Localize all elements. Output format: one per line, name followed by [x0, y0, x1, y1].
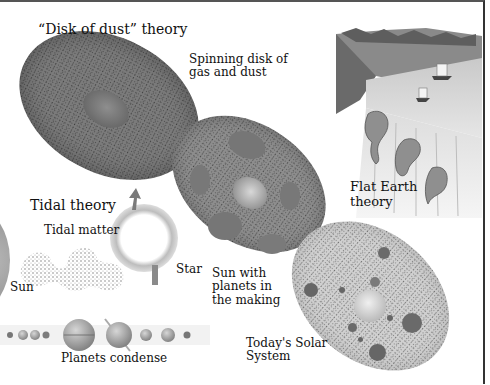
planet [304, 283, 318, 297]
arrow-tail [152, 265, 158, 285]
planet-row [0, 315, 210, 355]
flat-earth-line1: Flat Earth [350, 180, 417, 195]
spinning-disk-line2: gas and dust [189, 66, 288, 79]
disk-of-dust-theory-label: “Disk of dust” theory [38, 22, 187, 38]
sun-label: Sun [10, 281, 34, 294]
protoplanet-blob [208, 212, 242, 240]
solar-system-sun [354, 290, 386, 322]
arrow-up-icon [128, 188, 142, 210]
star-ring [110, 204, 178, 272]
sun-with-planets-line3: the making [212, 294, 281, 307]
protoplanet-blob [258, 234, 286, 254]
todays-solar-line2: System [246, 350, 327, 363]
spinning-disk-label: Spinning disk of gas and dust [189, 53, 288, 80]
spinning-disk-line1: Spinning disk of [189, 53, 288, 66]
sun-with-planets-label: Sun with planets in the making [212, 267, 281, 307]
sun-with-planets-line2: planets in [212, 280, 281, 293]
planet [348, 323, 357, 332]
planet [402, 313, 422, 333]
todays-solar-line1: Today's Solar [246, 337, 327, 350]
planet [378, 247, 390, 259]
planet [358, 337, 363, 342]
protoplanet-blob [190, 165, 210, 195]
planets-condense-label: Planets condense [61, 352, 167, 365]
sun-with-planets-line1: Sun with [212, 267, 281, 280]
flat-earth-label: Flat Earth theory [350, 180, 417, 209]
planet [370, 277, 380, 287]
protoplanet-blob [280, 182, 300, 210]
planet [387, 315, 393, 321]
tidal-theory-label: Tidal theory [30, 198, 116, 214]
flat-earth-line2: theory [350, 195, 417, 210]
planet [339, 287, 345, 293]
tidal-matter-label: Tidal matter [44, 224, 119, 237]
todays-solar-system-label: Today's Solar System [246, 337, 327, 364]
planet [369, 344, 386, 361]
star-label: Star [176, 263, 202, 276]
